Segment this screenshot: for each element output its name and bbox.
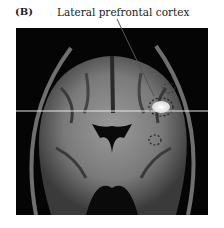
panel-label: (B)	[15, 6, 33, 17]
annotation-label: Lateral prefrontal cortex	[57, 6, 189, 18]
brain-scan-graphic	[16, 28, 208, 215]
brain-mri-image	[16, 28, 208, 215]
